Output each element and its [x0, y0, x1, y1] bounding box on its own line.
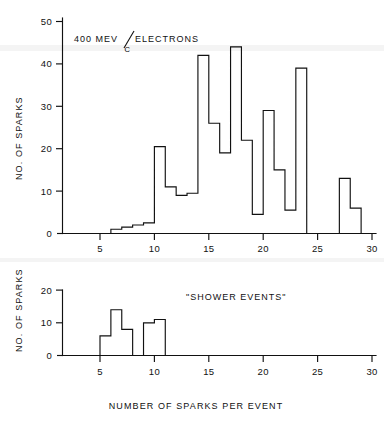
upper-ytick-50: 50 — [41, 16, 52, 27]
upper-ytick-30: 30 — [41, 101, 52, 112]
upper-panel: 0 10 20 30 40 50 5 10 15 20 25 30 NO — [14, 16, 378, 254]
upper-xtick-25: 25 — [312, 243, 323, 254]
lower-ytick-20: 20 — [41, 285, 52, 296]
lower-annotation-shower-events: "SHOWER EVENTS" — [186, 292, 286, 302]
lower-x-ticks — [100, 356, 372, 363]
figure-canvas: 0 10 20 30 40 50 5 10 15 20 25 30 NO — [0, 0, 384, 426]
lower-ytick-10: 10 — [41, 317, 52, 328]
upper-y-axis-title: NO. OF SPARKS — [14, 96, 24, 180]
upper-xtick-10: 10 — [149, 243, 160, 254]
lower-y-axis-title: NO. OF SPARKS — [14, 268, 24, 352]
lower-xtick-30: 30 — [366, 366, 377, 377]
lower-xtick-15: 15 — [203, 366, 214, 377]
upper-annotation-particle: ELECTRONS — [135, 34, 199, 44]
upper-xtick-30: 30 — [366, 243, 377, 254]
upper-histogram-outline — [111, 47, 361, 234]
upper-xtick-15: 15 — [203, 243, 214, 254]
upper-annotation-energy: 400 MEV — [74, 34, 118, 44]
upper-ytick-20: 20 — [41, 143, 52, 154]
upper-xtick-5: 5 — [97, 243, 103, 254]
upper-ytick-40: 40 — [41, 58, 52, 69]
lower-y-ticks — [56, 290, 63, 355]
lower-xtick-10: 10 — [149, 366, 160, 377]
upper-ytick-0: 0 — [46, 228, 52, 239]
upper-annotation-denominator: C — [125, 45, 131, 54]
upper-xtick-20: 20 — [258, 243, 269, 254]
lower-xtick-25: 25 — [312, 366, 323, 377]
lower-xtick-20: 20 — [258, 366, 269, 377]
lower-histogram-outline — [100, 310, 165, 356]
upper-y-ticks — [56, 22, 63, 234]
upper-annotation: 400 MEV C ELECTRONS — [74, 31, 199, 54]
lower-ytick-0: 0 — [46, 350, 52, 361]
upper-x-ticks — [100, 234, 372, 241]
x-axis-caption: NUMBER OF SPARKS PER EVENT — [109, 401, 283, 411]
lower-xtick-5: 5 — [97, 366, 103, 377]
upper-ytick-10: 10 — [41, 186, 52, 197]
lower-panel: 0 10 20 5 10 15 20 25 30 NO. OF SPARKS "… — [14, 268, 378, 377]
spark-chamber-figure: 0 10 20 30 40 50 5 10 15 20 25 30 NO — [0, 0, 384, 426]
